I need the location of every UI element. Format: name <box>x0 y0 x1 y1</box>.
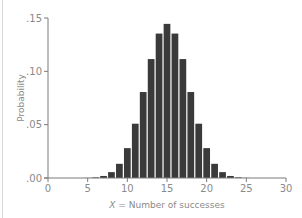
probability-histogram: .00.05.10.15 051015202530 Probability X … <box>0 0 302 218</box>
bar-11 <box>132 124 139 178</box>
bar-8 <box>108 172 115 178</box>
bar-10 <box>124 148 131 178</box>
x-tick-label: 30 <box>280 183 293 194</box>
bar-17 <box>180 59 187 178</box>
x-ticks: 051015202530 <box>45 178 293 194</box>
bar-19 <box>195 124 202 178</box>
bar-12 <box>140 92 147 178</box>
bar-21 <box>211 164 218 178</box>
x-tick-label: 25 <box>240 183 253 194</box>
bar-22 <box>219 172 226 178</box>
x-tick-label: 10 <box>121 183 134 194</box>
bar-15 <box>164 24 171 178</box>
bar-20 <box>203 148 210 178</box>
y-axis-label: Probability <box>16 74 26 122</box>
bar-13 <box>148 59 155 178</box>
bar-18 <box>187 92 194 178</box>
x-tick-label: 20 <box>200 183 213 194</box>
x-tick-label: 15 <box>161 183 174 194</box>
bar-16 <box>172 34 179 178</box>
x-tick-label: 5 <box>84 183 90 194</box>
y-tick-label: .15 <box>26 13 42 24</box>
bar-14 <box>156 34 163 178</box>
bars <box>84 24 249 178</box>
y-ticks: .00.05.10.15 <box>26 13 48 184</box>
x-axis-label: X = Number of successes <box>108 200 225 210</box>
x-tick-label: 0 <box>45 183 51 194</box>
y-tick-label: .05 <box>26 119 42 130</box>
y-tick-label: .00 <box>26 173 42 184</box>
y-tick-label: .10 <box>26 66 42 77</box>
bar-9 <box>116 164 123 178</box>
